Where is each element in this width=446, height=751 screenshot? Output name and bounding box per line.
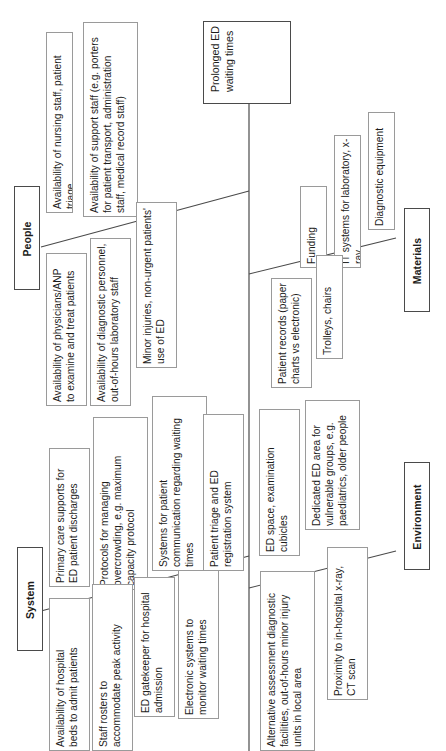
cause-label: Patient records (paper charts vs electro… xyxy=(272,278,306,388)
category-label-system[interactable]: System xyxy=(17,547,43,651)
cause-box[interactable]: Proximity to in-hospital x-ray, CT scan xyxy=(327,547,368,700)
category-label-materials[interactable]: Materials xyxy=(404,208,430,312)
cause-box[interactable]: Protocols for managing overcrowding, e.g… xyxy=(93,417,148,590)
cause-box[interactable]: ED gatekeeper for hospital admission xyxy=(134,577,175,717)
cause-box[interactable]: Primary care supports for ED patient dis… xyxy=(49,448,90,587)
cause-box[interactable]: ED space, examination cubicles xyxy=(259,409,300,556)
cause-label: Electronic systems to monitor waiting ti… xyxy=(179,570,213,719)
cause-label: ED space, examination cubicles xyxy=(260,409,294,556)
cause-box[interactable]: Patient triage and ED registration syste… xyxy=(203,414,244,571)
cause-box[interactable]: Minor injuries, non-urgent patients' use… xyxy=(136,202,177,368)
cause-label: Proximity to in-hospital x-ray, CT scan xyxy=(328,547,362,700)
cause-box[interactable]: Availability of diagnostic personnel, ou… xyxy=(90,238,131,406)
cause-label: Alternative assessment diagnostic facili… xyxy=(261,571,308,751)
effect-label: Prolonged ED waiting times xyxy=(204,21,241,98)
cause-box[interactable]: Diagnostic equipment xyxy=(368,112,395,230)
cause-box[interactable]: Availability of support staff (e.g. port… xyxy=(83,22,138,217)
cause-label: Protocols for managing overcrowding, e.g… xyxy=(94,417,141,590)
category-label-people-text: People xyxy=(15,187,40,290)
cause-box[interactable]: Dedicated ED area for vulnerable groups,… xyxy=(305,400,360,530)
category-label-environment-text: Environment xyxy=(405,463,430,570)
cause-label: IT systems for laboratory, x-ray xyxy=(335,135,361,268)
cause-box[interactable]: Trolleys, chairs xyxy=(316,255,343,359)
effect-box: Prolonged ED waiting times xyxy=(203,21,291,104)
cause-label: Minor injuries, non-urgent patients' use… xyxy=(137,202,171,368)
cause-box[interactable]: Systems for patient communication regard… xyxy=(152,396,207,571)
cause-label: Availability of diagnostic personnel, ou… xyxy=(91,238,125,406)
category-label-system-text: System xyxy=(18,548,43,651)
cause-box[interactable]: Availability of nursing staff, patient t… xyxy=(46,32,73,213)
cause-label: Availability of hospital beds to admit p… xyxy=(50,598,84,751)
cause-label: Patient triage and ED registration syste… xyxy=(204,414,238,571)
category-label-people[interactable]: People xyxy=(14,186,40,290)
cause-label: Availability of nursing staff, patient t… xyxy=(47,32,73,213)
fishbone-diagram: Prolonged ED waiting times People Materi… xyxy=(0,0,446,751)
cause-label: ED gatekeeper for hospital admission xyxy=(135,577,169,717)
cause-box[interactable]: Electronic systems to monitor waiting ti… xyxy=(178,570,219,719)
cause-label: Trolleys, chairs xyxy=(317,255,338,359)
cause-label: Staff rosters to accommodate peak activi… xyxy=(93,584,127,751)
cause-label: Systems for patient communication regard… xyxy=(153,396,200,571)
cause-label: Diagnostic equipment xyxy=(369,112,390,230)
cause-label: Availability of support staff (e.g. port… xyxy=(84,22,131,217)
category-label-materials-text: Materials xyxy=(405,209,430,312)
cause-label: Dedicated ED area for vulnerable groups,… xyxy=(306,400,353,530)
cause-box[interactable]: Patient records (paper charts vs electro… xyxy=(271,278,312,388)
cause-box[interactable]: Availability of physicians/ANP to examin… xyxy=(46,253,87,406)
category-label-environment[interactable]: Environment xyxy=(404,462,430,570)
cause-box[interactable]: IT systems for laboratory, x-ray xyxy=(334,135,361,268)
cause-label: Availability of physicians/ANP to examin… xyxy=(47,253,81,406)
cause-label: Primary care supports for ED patient dis… xyxy=(50,448,84,587)
cause-box[interactable]: Staff rosters to accommodate peak activi… xyxy=(92,584,133,751)
cause-box[interactable]: Availability of hospital beds to admit p… xyxy=(49,598,90,751)
cause-box[interactable]: Alternative assessment diagnostic facili… xyxy=(260,571,315,751)
